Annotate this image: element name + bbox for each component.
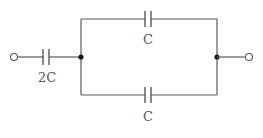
left-terminal-icon [11, 54, 18, 61]
label-2c: 2C [38, 70, 56, 85]
right-terminal-icon [246, 54, 253, 61]
circuit-svg: 2C C C [0, 0, 263, 138]
capacitor-top-icon [145, 11, 151, 27]
capacitor-2c-icon [43, 49, 49, 65]
label-bottom-c: C [143, 109, 153, 124]
left-node-dot-icon [78, 54, 83, 59]
capacitor-bottom-icon [145, 87, 151, 103]
circuit-diagram: 2C C C [0, 0, 263, 138]
label-top-c: C [143, 32, 153, 47]
